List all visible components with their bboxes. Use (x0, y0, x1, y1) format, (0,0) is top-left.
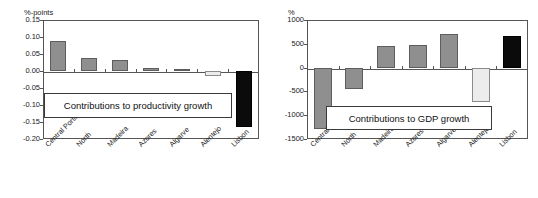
x-tick-mark (228, 69, 229, 72)
y-tick-label: -0.15 (18, 118, 40, 126)
y-tick-mark (304, 115, 307, 116)
y-tick-mark (40, 139, 43, 140)
x-tick-mark (105, 69, 106, 72)
annotation-box: Contributions to productivity growth (44, 93, 232, 118)
zero-axis-line (308, 69, 527, 70)
x-tick-mark (74, 69, 75, 72)
bar (205, 71, 221, 76)
x-tick-mark (166, 69, 167, 72)
bar (503, 36, 521, 67)
y-tick-mark (40, 37, 43, 38)
bar (174, 69, 190, 71)
x-tick-mark (307, 66, 308, 69)
x-tick-mark (370, 66, 371, 69)
zero-axis-line (44, 72, 258, 73)
y-tick-mark (304, 91, 307, 92)
two-panel-bar-chart-figure: %-points 0.150.100.050.00-0.05-0.10-0.15… (0, 0, 538, 198)
y-tick-label: 500 (280, 40, 304, 48)
y-tick-mark (40, 88, 43, 89)
y-tick-label: -0.05 (18, 84, 40, 92)
x-tick-mark (43, 69, 44, 72)
annotation-text: Contributions to productivity growth (64, 100, 212, 111)
y-tick-mark (304, 44, 307, 45)
bar (50, 41, 66, 71)
bar (81, 58, 97, 71)
y-tick-mark (304, 139, 307, 140)
bar (345, 68, 363, 89)
annotation-text: Contributions to GDP growth (349, 113, 470, 124)
bar (377, 46, 395, 68)
y-tick-label: 0.15 (18, 16, 40, 24)
x-tick-mark (496, 66, 497, 69)
annotation-box: Contributions to GDP growth (326, 106, 492, 130)
y-tick-label: 0.05 (18, 50, 40, 58)
bar (472, 68, 490, 103)
y-tick-mark (40, 20, 43, 21)
panel-productivity-growth: %-points 0.150.100.050.00-0.05-0.10-0.15… (0, 0, 269, 198)
y-tick-label: -500 (280, 87, 304, 95)
y-tick-label: 0 (280, 64, 304, 72)
x-tick-mark (136, 69, 137, 72)
y-tick-label: -1500 (280, 135, 304, 143)
y-tick-label: 0.00 (18, 67, 40, 75)
x-tick-mark (339, 66, 340, 69)
bar (440, 34, 458, 67)
y-tick-mark (304, 20, 307, 21)
x-tick-mark (465, 66, 466, 69)
x-tick-mark (433, 66, 434, 69)
bar (409, 45, 427, 68)
bar (143, 68, 159, 71)
bar (112, 60, 128, 71)
y-tick-label: -0.20 (18, 135, 40, 143)
y-tick-mark (40, 54, 43, 55)
y-tick-mark (40, 105, 43, 106)
bar (236, 71, 252, 127)
y-tick-label: -1000 (280, 111, 304, 119)
x-tick-mark (197, 69, 198, 72)
y-tick-label: -0.10 (18, 101, 40, 109)
y-tick-label: 1000 (280, 16, 304, 24)
panel-gdp-growth: % 10005000-500-1000-1500 Central Portuga… (269, 0, 538, 198)
x-tick-mark (402, 66, 403, 69)
y-tick-mark (40, 122, 43, 123)
y-tick-label: 0.10 (18, 33, 40, 41)
